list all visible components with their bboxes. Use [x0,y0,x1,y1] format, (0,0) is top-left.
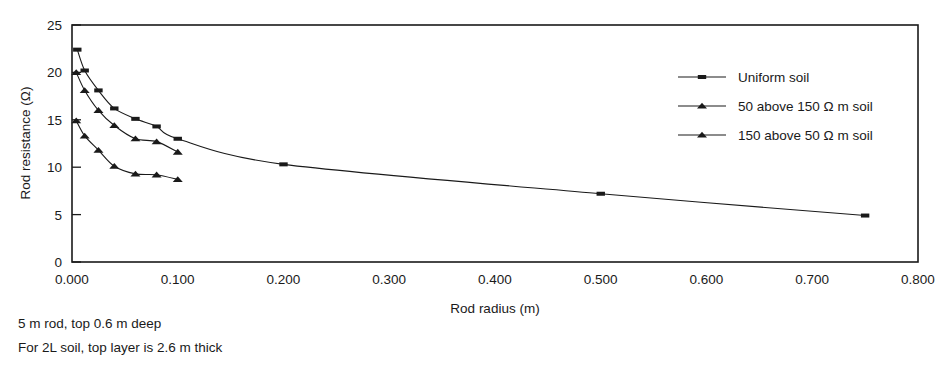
x-tick-label: 0.100 [161,272,195,287]
data-point [80,133,90,139]
x-tick-label: 0.000 [55,272,89,287]
data-point [93,147,103,153]
data-point [130,136,140,142]
x-tick-label: 0.400 [478,272,512,287]
y-tick-label: 10 [47,160,62,175]
data-point [279,162,287,166]
x-tick-label: 0.200 [267,272,301,287]
legend-marker [698,75,706,79]
y-tick-label: 25 [47,18,62,33]
data-point [861,214,869,218]
chart-svg: 0510152025 0.0000.1000.2000.3000.4000.50… [0,0,948,379]
x-tick-label: 0.700 [795,272,829,287]
y-tick-label: 5 [54,208,62,223]
data-point [80,87,90,93]
x-tick-label: 0.500 [584,272,618,287]
data-point [110,106,118,110]
chart-legend: Uniform soil50 above 150 Ω m soil150 abo… [678,70,873,143]
y-axis-title: Rod resistance (Ω) [18,87,33,200]
plot-frame [72,25,918,262]
legend-label: 150 above 50 Ω m soil [738,128,873,143]
x-axis: 0.0000.1000.2000.3000.4000.5000.6000.700… [55,272,935,287]
y-tick-label: 20 [47,65,62,80]
y-axis: 0510152025 [47,18,81,270]
series-line [76,121,178,180]
data-point [174,137,182,141]
caption-line-1: 5 m rod, top 0.6 m deep [18,316,161,331]
series-2 [71,69,183,154]
series-3 [71,118,183,183]
data-point [152,124,160,128]
data-point [73,48,81,52]
y-tick-label: 15 [47,113,62,128]
y-tick-label: 0 [54,255,62,270]
x-axis-title: Rod radius (m) [450,301,539,316]
x-tick-label: 0.300 [372,272,406,287]
x-tick-label: 0.600 [690,272,724,287]
figure-container: 0510152025 0.0000.1000.2000.3000.4000.50… [0,0,948,379]
legend-item: Uniform soil [678,70,809,85]
legend-label: Uniform soil [738,70,809,85]
legend-label: 50 above 150 Ω m soil [738,99,873,114]
legend-item: 50 above 150 Ω m soil [678,99,873,114]
data-point [93,107,103,113]
data-point [131,117,139,121]
data-point [597,192,605,196]
data-point [80,69,88,73]
data-point [94,88,102,92]
legend-item: 150 above 50 Ω m soil [678,128,873,143]
series-line [76,72,178,152]
caption-line-2: For 2L soil, top layer is 2.6 m thick [18,340,223,355]
x-tick-label: 0.800 [901,272,935,287]
